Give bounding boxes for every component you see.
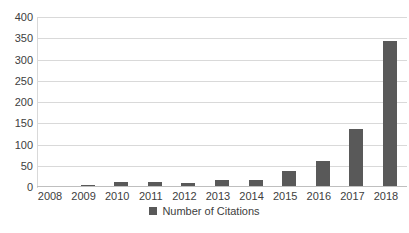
bar-2017 [349, 129, 363, 186]
x-axis-tick-labels: 2008 2009 2010 2011 2012 2013 2014 2015 … [37, 189, 407, 205]
bar-slot-2017 [341, 17, 372, 186]
bar-slot-2010 [106, 17, 137, 186]
y-tick-label-50: 50 [3, 160, 33, 171]
bar-2013 [215, 180, 229, 186]
legend-swatch-icon [149, 207, 157, 215]
bar-2010 [114, 182, 128, 186]
y-tick-label-400: 400 [3, 12, 33, 23]
bar-2015 [282, 171, 296, 186]
x-tick-label-2018: 2018 [366, 189, 406, 203]
bar-slot-2014 [240, 17, 271, 186]
bar-slot-2013 [207, 17, 238, 186]
bar-slot-2011 [140, 17, 171, 186]
bar-2012 [181, 183, 195, 186]
legend-label-number-of-citations: Number of Citations [162, 205, 259, 217]
bar-2011 [148, 182, 162, 186]
chart-legend: Number of Citations [0, 205, 409, 217]
y-tick-label-300: 300 [3, 54, 33, 65]
y-tick-label-350: 350 [3, 33, 33, 44]
plot-area [37, 17, 407, 187]
y-axis-tick-labels: 400 350 300 250 200 150 100 50 0 [0, 0, 33, 233]
bar-2014 [249, 180, 263, 186]
y-tick-label-150: 150 [3, 118, 33, 129]
y-tick-label-100: 100 [3, 139, 33, 150]
y-tick-label-200: 200 [3, 97, 33, 108]
bar-slot-2008 [39, 17, 70, 186]
bar-slot-2015 [274, 17, 305, 186]
bar-slot-2018 [375, 17, 406, 186]
y-tick-label-0: 0 [3, 182, 33, 193]
y-tick-label-250: 250 [3, 75, 33, 86]
citations-bar-chart: 400 350 300 250 200 150 100 50 0 [0, 0, 409, 233]
bar-2009 [81, 185, 95, 186]
bar-slot-2016 [308, 17, 339, 186]
x-axis-baseline [37, 186, 407, 187]
bar-2016 [316, 161, 330, 186]
bar-slot-2009 [72, 17, 103, 186]
bar-2018 [383, 41, 397, 186]
bar-slot-2012 [173, 17, 204, 186]
